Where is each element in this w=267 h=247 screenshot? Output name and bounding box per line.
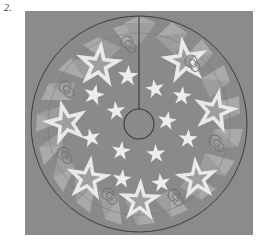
tree-skirt-illustration xyxy=(25,11,253,235)
figure-number-label: 2. xyxy=(4,3,12,13)
figure-page: 2. xyxy=(0,0,267,247)
center-hole xyxy=(124,109,154,139)
illustration-panel xyxy=(25,11,253,235)
